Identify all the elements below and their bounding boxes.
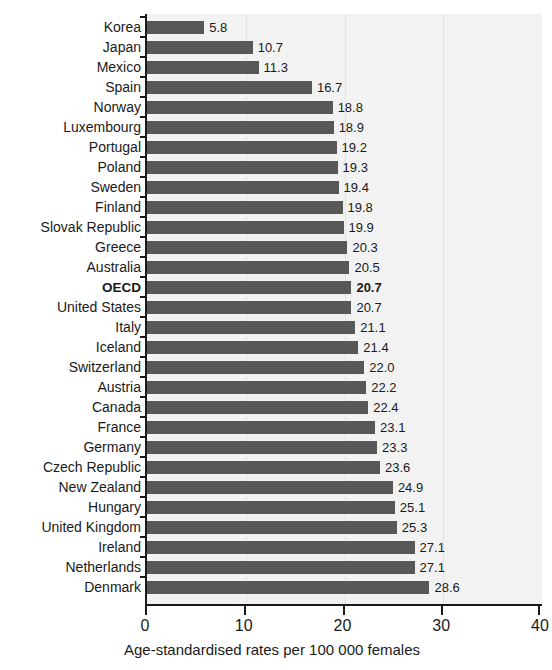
bar-value-label: 18.8 — [333, 98, 363, 118]
bar[interactable] — [147, 521, 397, 534]
bar-value-label: 25.3 — [397, 518, 427, 538]
bar[interactable] — [147, 461, 380, 474]
bar-row: 11.3 — [147, 58, 542, 78]
category-axis-labels: KoreaJapanMexicoSpainNorwayLuxembourgPor… — [0, 14, 141, 604]
bar[interactable] — [147, 81, 312, 94]
category-label: New Zealand — [0, 478, 141, 498]
bar[interactable] — [147, 401, 368, 414]
category-label: Hungary — [0, 498, 141, 518]
bar[interactable] — [147, 501, 395, 514]
bar[interactable] — [147, 161, 338, 174]
bar-row: 19.3 — [147, 158, 542, 178]
bar[interactable] — [147, 261, 349, 274]
bar-value-label: 18.9 — [334, 118, 364, 138]
bar-row: 5.8 — [147, 18, 542, 38]
y-axis-tick — [140, 516, 147, 518]
bar-value-label: 16.7 — [312, 78, 342, 98]
y-axis-tick — [140, 376, 147, 378]
category-label: Canada — [0, 398, 141, 418]
bar-value-label: 28.6 — [429, 578, 459, 598]
y-axis-tick — [140, 36, 147, 38]
bar[interactable] — [147, 301, 351, 314]
category-label: Finland — [0, 198, 141, 218]
x-axis-tick-label: 30 — [432, 616, 450, 636]
y-axis-tick — [140, 296, 147, 298]
bar-rows: 5.810.711.316.718.818.919.219.319.419.81… — [147, 14, 542, 604]
bar[interactable] — [147, 101, 333, 114]
bar-row: 10.7 — [147, 38, 542, 58]
bar-row: 21.4 — [147, 338, 542, 358]
y-axis-tick — [140, 356, 147, 358]
bar[interactable] — [147, 381, 366, 394]
bar-row: 19.2 — [147, 138, 542, 158]
bar[interactable] — [147, 241, 347, 254]
bar[interactable] — [147, 441, 377, 454]
category-label: OECD — [0, 278, 141, 298]
bar[interactable] — [147, 41, 253, 54]
category-label: Italy — [0, 318, 141, 338]
x-axis-tick — [145, 606, 147, 615]
y-axis-tick — [140, 576, 147, 578]
bar-row: 22.4 — [147, 398, 542, 418]
x-axis-tick — [343, 606, 345, 615]
x-axis-tick — [538, 606, 540, 615]
bar[interactable] — [147, 61, 259, 74]
bar-row: 25.3 — [147, 518, 542, 538]
y-axis-tick — [140, 396, 147, 398]
bar[interactable] — [147, 221, 344, 234]
bar-row: 20.7 — [147, 278, 542, 298]
bar-value-label: 22.0 — [364, 358, 394, 378]
category-label: Czech Republic — [0, 458, 141, 478]
bar[interactable] — [147, 561, 415, 574]
category-label: Iceland — [0, 338, 141, 358]
bar-chart: 5.810.711.316.718.818.919.219.319.419.81… — [0, 0, 552, 670]
y-axis-tick — [140, 116, 147, 118]
plot-area: 5.810.711.316.718.818.919.219.319.419.81… — [145, 14, 542, 606]
bar-value-label: 22.4 — [368, 398, 398, 418]
category-label: Sweden — [0, 178, 141, 198]
bar-row: 21.1 — [147, 318, 542, 338]
category-label: Switzerland — [0, 358, 141, 378]
y-axis-tick — [140, 496, 147, 498]
bar[interactable] — [147, 21, 204, 34]
bar-value-label: 24.9 — [393, 478, 423, 498]
bar[interactable] — [147, 541, 415, 554]
bar-value-label: 20.3 — [347, 238, 377, 258]
category-label: Greece — [0, 238, 141, 258]
bar-row: 25.1 — [147, 498, 542, 518]
bar[interactable] — [147, 201, 343, 214]
bar[interactable] — [147, 281, 351, 294]
x-axis-tick-label: 20 — [334, 616, 352, 636]
y-axis-tick — [140, 256, 147, 258]
bar-value-label: 20.5 — [349, 258, 379, 278]
category-label: Germany — [0, 438, 141, 458]
category-label: Spain — [0, 78, 141, 98]
bar-row: 20.3 — [147, 238, 542, 258]
bar-value-label: 27.1 — [415, 538, 445, 558]
bar-value-label: 22.2 — [366, 378, 396, 398]
bar-value-label: 19.3 — [338, 158, 368, 178]
clipped-title — [150, 0, 410, 6]
bar[interactable] — [147, 321, 355, 334]
bar[interactable] — [147, 181, 339, 194]
y-axis-tick — [140, 176, 147, 178]
bar[interactable] — [147, 341, 358, 354]
bar-row: 20.5 — [147, 258, 542, 278]
bar[interactable] — [147, 481, 393, 494]
bar[interactable] — [147, 361, 364, 374]
category-label: Denmark — [0, 578, 141, 598]
bar[interactable] — [147, 121, 334, 134]
category-label: Poland — [0, 158, 141, 178]
bar-value-label: 19.2 — [337, 138, 367, 158]
y-axis-tick — [140, 536, 147, 538]
bar[interactable] — [147, 141, 337, 154]
bar[interactable] — [147, 581, 429, 594]
category-label: Korea — [0, 18, 141, 38]
bar-row: 19.9 — [147, 218, 542, 238]
x-axis-title: Age-standardised rates per 100 000 femal… — [0, 640, 552, 660]
bar-row: 18.9 — [147, 118, 542, 138]
bar-value-label: 19.4 — [339, 178, 369, 198]
bar[interactable] — [147, 421, 375, 434]
category-label: Japan — [0, 38, 141, 58]
category-label: Australia — [0, 258, 141, 278]
